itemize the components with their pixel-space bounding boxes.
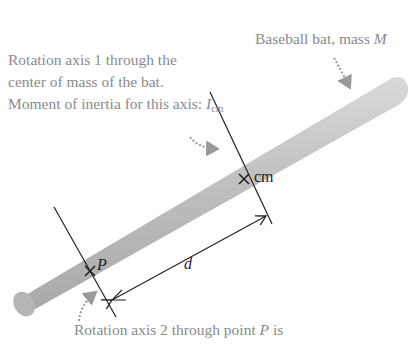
axis1-pointer bbox=[190, 137, 218, 149]
axis1-label-line3: Moment of inertia for this axis: Icm bbox=[8, 94, 223, 119]
distance-label: d bbox=[184, 255, 192, 273]
p-label: P bbox=[97, 256, 107, 274]
axis2-pointer bbox=[79, 292, 96, 321]
axis1-label-line1: Rotation axis 1 through the bbox=[8, 50, 177, 70]
bat-pointer bbox=[334, 58, 350, 88]
axis2-label: Rotation axis 2 through point P is bbox=[74, 320, 283, 340]
bat-label: Baseball bat, mass M bbox=[255, 29, 387, 49]
axis1-label-line2: center of mass of the bat. bbox=[8, 72, 164, 92]
cm-label: cm bbox=[254, 168, 274, 186]
